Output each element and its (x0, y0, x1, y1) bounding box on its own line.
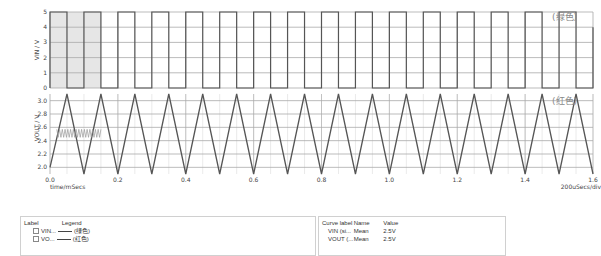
legend-panel: Label Legend VIN...(绿色) VO...(红色) (20, 216, 316, 256)
line-swatch-icon (58, 231, 72, 232)
vout-color-note: (红色) (552, 95, 577, 106)
y-tick-label: 3.0 (37, 97, 47, 104)
header-value: Value (383, 219, 398, 227)
y-tick-label: 5 (43, 8, 47, 15)
line-swatch-icon (57, 239, 71, 240)
x-tick-label: 1.6 (588, 176, 598, 183)
x-axis-title: time/mSecs (50, 183, 85, 190)
measure-name: Mean (354, 227, 382, 235)
measurement-panel: Curve label Name Value VIN (si... Mean 2… (318, 216, 506, 256)
vin-axis-label: VIN / V (33, 39, 40, 60)
curve-label: VIN (si... (328, 227, 352, 235)
ripple-trace (57, 129, 101, 137)
legend-color-text: (绿色) (74, 227, 90, 235)
measurement-row[interactable]: VOUT (... Mean 2.5V (328, 235, 396, 243)
legend-header-legend: Legend (62, 219, 82, 227)
measure-value: 2.5V (383, 227, 395, 235)
legend-color-text: (红色) (73, 235, 89, 243)
y-tick-label: 2 (43, 54, 47, 61)
y-tick-label: 4 (43, 23, 47, 30)
x-tick-label: 1.2 (452, 176, 462, 183)
highlight-region (50, 12, 101, 88)
header-name: Name (354, 219, 382, 227)
legend-header-label: Label (24, 219, 60, 227)
x-tick-label: 0.4 (181, 176, 191, 183)
x-tick-label: 0.6 (249, 176, 259, 183)
waveform-chart: 012345 2.02.22.42.62.83.00.00.20.40.60.8… (0, 0, 601, 210)
vout-axis-label: VOUT / V (33, 114, 40, 142)
measurement-row[interactable]: VIN (si... Mean 2.5V (328, 227, 396, 235)
legend-label: VO... (41, 235, 55, 243)
x-tick-label: 1.0 (385, 176, 395, 183)
vin-visibility-checkbox[interactable] (33, 228, 39, 234)
header-curve-label: Curve label (322, 219, 352, 227)
x-tick-label: 1.4 (520, 176, 530, 183)
legend-label: VIN... (41, 227, 56, 235)
vout-plot: 2.02.22.42.62.83.00.00.20.40.60.81.01.21… (37, 94, 597, 183)
y-tick-label: 2.0 (37, 163, 47, 170)
measure-value: 2.5V (383, 235, 395, 243)
x-tick-label: 0.0 (45, 176, 55, 183)
x-tick-label: 0.2 (113, 176, 123, 183)
y-tick-label: 2.2 (37, 150, 47, 157)
legend-row-vin: VIN...(绿色) (33, 227, 90, 235)
y-tick-label: 3 (43, 38, 47, 45)
curve-label: VOUT (... (328, 235, 352, 243)
y-tick-label: 1 (43, 69, 47, 76)
measure-name: Mean (354, 235, 382, 243)
vin-plot: 012345 (43, 8, 593, 91)
vout-visibility-checkbox[interactable] (33, 236, 39, 242)
vin-trace (50, 12, 593, 88)
x-scale-label: 200uSecs/div (561, 183, 601, 190)
y-tick-label: 0 (43, 84, 47, 91)
legend-row-vout: VO...(红色) (33, 235, 89, 243)
x-tick-label: 0.8 (317, 176, 327, 183)
vin-color-note: (绿色) (552, 11, 577, 22)
